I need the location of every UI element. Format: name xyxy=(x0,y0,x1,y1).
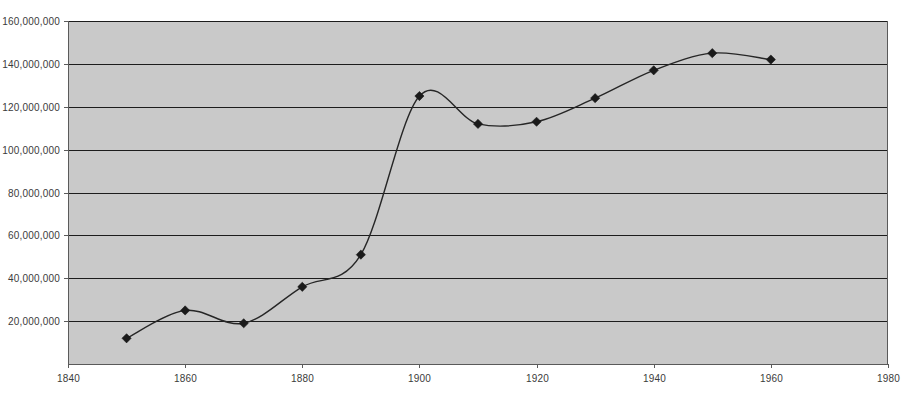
line-chart: 160,000,000140,000,000120,000,000100,000… xyxy=(0,0,916,404)
y-tick-label: 80,000,000 xyxy=(8,188,60,199)
y-tick-label: 40,000,000 xyxy=(8,273,60,284)
y-axis-tick-labels: 160,000,000140,000,000120,000,000100,000… xyxy=(2,16,60,327)
x-tick-label: 1860 xyxy=(174,373,197,384)
x-tick-label: 1960 xyxy=(760,373,783,384)
x-tick-label: 1900 xyxy=(408,373,431,384)
x-tick-label: 1880 xyxy=(291,373,314,384)
y-tick-label: 100,000,000 xyxy=(2,145,60,156)
x-tick-label: 1840 xyxy=(57,373,80,384)
x-tick-label: 1940 xyxy=(643,373,666,384)
chart-canvas: 160,000,000140,000,000120,000,000100,000… xyxy=(0,0,916,404)
y-tick-label: 160,000,000 xyxy=(2,16,60,27)
y-tick-label: 60,000,000 xyxy=(8,230,60,241)
y-tick-label: 120,000,000 xyxy=(2,102,60,113)
y-axis-ticks xyxy=(64,22,68,322)
y-tick-label: 140,000,000 xyxy=(2,59,60,70)
y-tick-label: 20,000,000 xyxy=(8,316,60,327)
x-axis-tick-labels: 18401860188019001920194019601980 xyxy=(57,373,900,384)
x-tick-label: 1980 xyxy=(877,373,900,384)
x-tick-label: 1920 xyxy=(526,373,549,384)
plot-area-background xyxy=(68,21,888,364)
